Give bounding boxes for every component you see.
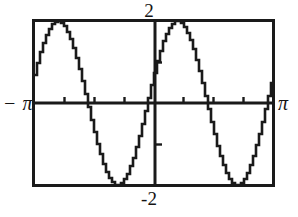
graph-figure: 2 -2 − π π [0,0,298,217]
plot-area [0,0,298,217]
